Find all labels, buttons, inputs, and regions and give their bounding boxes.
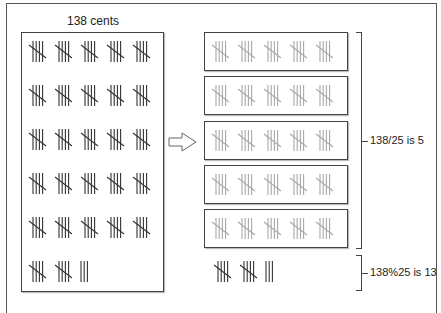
- tally-group-of-five: [212, 174, 229, 195]
- tally-group-of-five: [133, 217, 150, 238]
- tally-group-of-five: [29, 261, 46, 282]
- tally-group-of-five: [133, 173, 150, 194]
- tally-group-of-five: [264, 41, 281, 62]
- tally-group-of-five: [29, 217, 46, 238]
- tally-group-of-five: [81, 217, 98, 238]
- right-arrow-icon: [168, 132, 198, 152]
- tally-group-of-five: [238, 174, 255, 195]
- tally-group-of-five: [81, 85, 98, 106]
- tally-group-of-five: [107, 85, 124, 106]
- tally-group-of-five: [29, 129, 46, 150]
- tally-group-of-five: [107, 41, 124, 62]
- tally-group-of-five: [133, 41, 150, 62]
- tally-group-of-five: [29, 85, 46, 106]
- tally-group-of-five: [238, 130, 255, 151]
- tally-group-of-five: [238, 218, 255, 239]
- tally-group-of-five: [212, 218, 229, 239]
- tally-group-of-five: [107, 173, 124, 194]
- tally-group-of-five: [264, 174, 281, 195]
- tally-group-of-five: [316, 85, 333, 106]
- tally-group-of-five: [81, 173, 98, 194]
- remainder-label: 138%25 is 13: [370, 266, 437, 278]
- tally-group-of-five: [264, 85, 281, 106]
- tally-group-of-five: [55, 41, 72, 62]
- tally-group-of-five: [214, 261, 231, 282]
- tally-group-of-five: [238, 85, 255, 106]
- tally-marks-partial: [266, 261, 272, 282]
- tally-marks-partial: [81, 261, 87, 282]
- tally-group-of-five: [212, 130, 229, 151]
- tally-group-of-five: [212, 85, 229, 106]
- tally-group-of-five: [81, 129, 98, 150]
- tally-group-of-five: [29, 41, 46, 62]
- tally-group-of-five: [55, 261, 72, 282]
- tally-group-of-five: [81, 41, 98, 62]
- tally-group-of-five: [316, 130, 333, 151]
- quotient-bracket-tick: [362, 141, 368, 142]
- tally-group-of-five: [264, 130, 281, 151]
- tally-group-of-five: [240, 261, 257, 282]
- tally-group-of-five: [290, 130, 307, 151]
- tally-group-of-five: [290, 85, 307, 106]
- tally-group-of-five: [29, 173, 46, 194]
- tally-group-of-five: [238, 41, 255, 62]
- tally-group-of-five: [107, 217, 124, 238]
- tally-group-of-five: [55, 173, 72, 194]
- tally-group-of-five: [55, 129, 72, 150]
- tally-group-of-five: [264, 218, 281, 239]
- tally-group-of-five: [316, 218, 333, 239]
- tally-group-of-five: [133, 129, 150, 150]
- tally-group-of-five: [290, 174, 307, 195]
- tally-group-of-five: [316, 174, 333, 195]
- tally-group-of-five: [107, 129, 124, 150]
- tally-group-of-five: [212, 41, 229, 62]
- quotient-label: 138/25 is 5: [370, 134, 424, 146]
- tally-group-of-five: [55, 85, 72, 106]
- tally-group-of-five: [133, 85, 150, 106]
- tally-group-of-five: [316, 41, 333, 62]
- tally-group-of-five: [290, 218, 307, 239]
- tally-group-of-five: [55, 217, 72, 238]
- remainder-bracket-tick: [362, 273, 368, 274]
- tally-group-of-five: [290, 41, 307, 62]
